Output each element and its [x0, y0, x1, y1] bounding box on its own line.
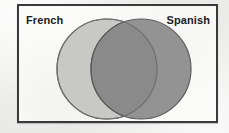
venn-label-spanish: Spanish [167, 15, 211, 26]
venn-label-french: French [26, 15, 63, 26]
diagram-frame: French Spanish [17, 4, 218, 123]
venn-diagram-page: French Spanish [0, 0, 229, 133]
